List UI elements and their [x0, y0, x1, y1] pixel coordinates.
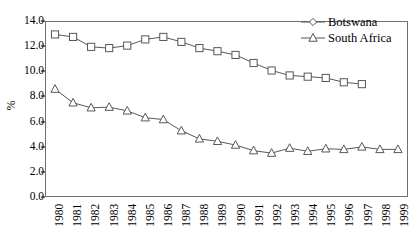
data-point-marker [358, 81, 365, 88]
data-point-marker [69, 33, 76, 40]
data-point-marker [142, 36, 149, 43]
legend-item-south-africa[interactable]: South Africa [300, 30, 405, 46]
series-line [55, 89, 398, 153]
data-point-marker [250, 59, 257, 66]
x-tick-label: 1992 [272, 198, 284, 221]
data-point-marker [214, 48, 221, 55]
data-point-marker [88, 43, 95, 50]
x-tick-label: 1988 [199, 198, 211, 221]
data-point-marker [304, 73, 311, 80]
data-point-marker [51, 31, 58, 38]
y-tick-label: 12.0 [14, 40, 44, 52]
x-tick-label: 1991 [254, 198, 266, 221]
y-tick-label: 2.0 [14, 166, 44, 178]
data-point-marker [232, 51, 239, 58]
data-point-marker [394, 145, 402, 153]
data-point-marker [195, 134, 203, 142]
y-tick-label: 14.0 [14, 15, 44, 27]
data-point-marker [51, 85, 59, 93]
data-point-marker [106, 45, 113, 52]
y-tick-label: 6.0 [14, 116, 44, 128]
data-point-marker [178, 38, 185, 45]
series-south-africa [51, 85, 402, 157]
x-tick-label: 1997 [363, 198, 375, 221]
legend-label: South Africa [326, 32, 392, 45]
data-point-marker [322, 74, 329, 81]
x-tick-label: 1989 [217, 198, 229, 221]
data-point-marker [160, 33, 167, 40]
data-point-marker [196, 45, 203, 52]
plot-svg [46, 22, 407, 196]
x-tick-label: 1985 [145, 198, 157, 221]
x-tick-label: 1998 [381, 198, 393, 221]
data-point-marker [340, 79, 347, 86]
data-point-marker [322, 144, 330, 152]
line-chart: % 0.02.04.06.08.010.012.014.0 1980198119… [0, 0, 419, 243]
x-tick-label: 1983 [109, 198, 121, 221]
diamond-marker-icon [300, 15, 326, 29]
x-tick-label: 1980 [54, 198, 66, 221]
x-tick-label: 1994 [308, 198, 320, 221]
plot-area [45, 21, 408, 197]
x-tick-label: 1995 [326, 198, 338, 221]
x-tick-label: 1999 [399, 198, 411, 221]
data-point-marker [105, 103, 113, 111]
legend-label: Botswana [326, 16, 377, 29]
x-tick-label: 1990 [236, 198, 248, 221]
y-axis-tick-labels: 0.02.04.06.08.010.012.014.0 [8, 0, 44, 243]
x-tick-label: 1982 [90, 198, 102, 221]
triangle-marker-icon [300, 31, 326, 45]
x-tick-label: 1984 [127, 198, 139, 221]
y-tick-label: 0.0 [14, 191, 44, 203]
x-tick-label: 1996 [344, 198, 356, 221]
y-tick-label: 8.0 [14, 91, 44, 103]
x-tick-label: 1993 [290, 198, 302, 221]
data-point-marker [177, 126, 185, 134]
legend-item-botswana[interactable]: Botswana [300, 14, 405, 30]
x-tick-label: 1987 [181, 198, 193, 221]
data-point-marker [124, 42, 131, 49]
chart-legend: BotswanaSouth Africa [300, 14, 405, 46]
x-tick-label: 1986 [163, 198, 175, 221]
data-point-marker [286, 72, 293, 79]
data-point-marker [268, 67, 275, 74]
x-tick-label: 1981 [72, 198, 84, 221]
y-tick-label: 4.0 [14, 141, 44, 153]
x-axis-tick-labels: 1980198119821983198419851986198719881989… [45, 198, 408, 243]
data-point-marker [358, 142, 366, 150]
data-point-marker [69, 98, 77, 106]
data-point-marker [286, 144, 294, 152]
y-tick-label: 10.0 [14, 66, 44, 78]
